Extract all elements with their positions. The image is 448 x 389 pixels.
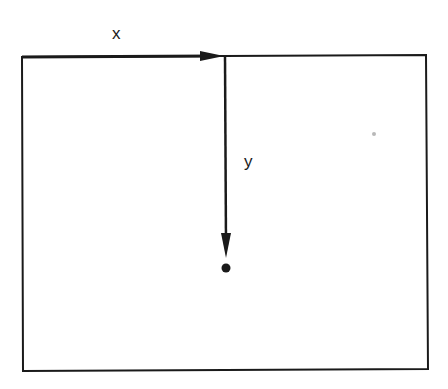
x-axis-arrowhead	[200, 51, 224, 61]
coordinate-diagram: x y	[0, 0, 448, 389]
y-axis-arrowhead	[221, 233, 231, 258]
x-axis-label: x	[112, 24, 121, 43]
y-axis-arrow	[225, 56, 226, 246]
y-axis-label: y	[244, 152, 253, 171]
x-axis-arrow	[22, 56, 214, 57]
speck-mark	[372, 132, 376, 136]
target-point	[222, 264, 231, 273]
